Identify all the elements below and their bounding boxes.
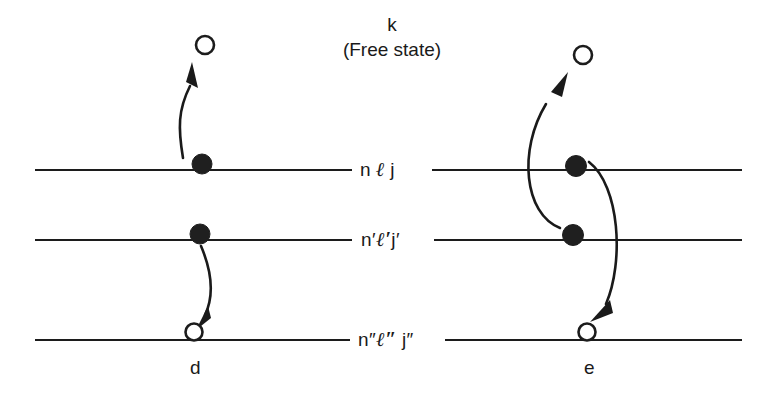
level-label-np-lp-jp-l: ℓ′ [376, 228, 391, 250]
hole-e-level-npp-lpp-jpp [579, 324, 596, 341]
electron-e-level-np-lp-jp [563, 225, 584, 246]
free-state-particle-d [196, 36, 214, 54]
panel-e-particles [563, 46, 596, 341]
electron-d-level-np-lp-jp [190, 224, 210, 244]
panel-letter-d: d [190, 357, 201, 379]
panel-d-transitions [180, 62, 211, 330]
level-label-npp-lpp-jpp: n″ℓ″j″ [358, 329, 414, 349]
panel-letter-e: e [584, 357, 595, 379]
transition-arrow-d-ionization-head [186, 62, 198, 88]
free-state-caption: (Free state) [292, 37, 492, 62]
level-label-n-l-j-n: n [360, 159, 371, 180]
transition-arrow-e-ionization [528, 104, 560, 228]
energy-level-diagram: k (Free state) nℓj n′ℓ′j′ n″ℓ″j″ d e [0, 0, 774, 396]
level-lines-group [35, 170, 742, 340]
free-state-symbol: k [292, 12, 492, 37]
level-label-n-l-j-j: j [390, 159, 395, 180]
electron-d-level-n-l-j [192, 154, 212, 174]
panel-e-transitions [528, 72, 616, 322]
transition-arrow-e-decay [589, 162, 617, 304]
free-state-particle-e [574, 46, 592, 64]
level-label-np-lp-jp-n: n′ [361, 229, 376, 250]
level-label-npp-lpp-jpp-j: j″ [402, 329, 414, 350]
transition-arrow-e-decay-head [590, 300, 613, 322]
level-label-npp-lpp-jpp-l: ℓ″ [376, 328, 397, 350]
transition-arrow-d-ionization [180, 86, 190, 158]
level-label-n-l-j: nℓj [360, 159, 395, 179]
level-label-np-lp-jp: n′ℓ′j′ [361, 229, 400, 249]
level-label-npp-lpp-jpp-n: n″ [358, 329, 376, 350]
free-state-label-block: k (Free state) [292, 12, 492, 62]
transition-arrow-d-decay [201, 246, 211, 315]
level-label-np-lp-jp-j: j′ [391, 229, 400, 250]
electron-e-level-n-l-j [566, 156, 587, 177]
hole-d-level-npp-lpp-jpp [186, 324, 203, 341]
level-label-n-l-j-l: ℓ [376, 158, 385, 180]
transition-arrow-e-ionization-head [551, 72, 568, 97]
